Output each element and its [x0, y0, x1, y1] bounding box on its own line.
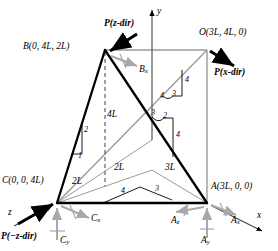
slope-CA-run2: 3: [155, 185, 159, 193]
reaction-Cx-sub: x: [97, 216, 100, 224]
member-BA: [105, 50, 207, 203]
force-P-neg-z-label: P(−z-dir): [1, 232, 37, 242]
base-line-mid-A: [152, 170, 207, 203]
x-axis-label: x: [257, 211, 261, 221]
dim-2L-mid-label: 2L: [114, 163, 124, 173]
slope-BC-run: 1: [78, 152, 82, 160]
dim-2L-left-label: 2L: [72, 177, 82, 187]
reaction-Az-label: Az: [171, 216, 180, 226]
point-C-label: C(0, 0, 4L): [2, 176, 44, 186]
reaction-Ax-sub: x: [237, 218, 240, 226]
slope-triangle-CA: [103, 187, 172, 203]
reaction-Bx-sub: x: [145, 67, 148, 75]
arrow-Az: [176, 207, 204, 212]
slope-CO-rise: 4: [185, 76, 189, 84]
base-plane-lines: [57, 140, 207, 203]
reaction-Ay-sub: y: [207, 238, 210, 246]
y-axis-label: y: [157, 7, 161, 17]
figure-canvas: B(0, 4L, 2L) O(3L, 4L, 0) C(0, 0, 4L) A(…: [0, 0, 278, 251]
force-P-z-label: P(z-dir): [104, 19, 134, 29]
slope-CA-run1: 4: [121, 187, 125, 195]
reaction-Ax-label: Ax: [231, 216, 240, 226]
force-P-x-label: P(x-dir): [214, 68, 245, 78]
slope-BC-rise: 2: [84, 126, 88, 134]
reaction-Bx-label: Bx: [139, 65, 148, 75]
point-B-label: B(0, 4L, 2L): [23, 42, 69, 52]
diagram-svg: [0, 0, 278, 251]
reaction-Az-sub: z: [177, 218, 180, 226]
reaction-Cy-sub: y: [66, 238, 69, 246]
reaction-Ay-label: Ay: [201, 236, 210, 246]
dim-3L-right-label: 3L: [165, 163, 175, 173]
z-axis-label: z: [8, 208, 12, 218]
slope-CO-run2: 3: [172, 90, 176, 98]
reaction-Cx-label: Cx: [91, 214, 100, 224]
slope-BA-run1: 3: [151, 109, 155, 117]
dim-4L-label: 4L: [107, 110, 117, 120]
slope-BA-run2: 2: [163, 112, 167, 120]
reaction-Cy-label: Cy: [60, 236, 69, 246]
reaction-arrows: [50, 54, 236, 240]
point-O-label: O(3L, 4L, 0): [199, 28, 247, 38]
point-A-label: A(3L, 0, 0): [211, 182, 252, 192]
slope-BA-rise: 4: [176, 131, 180, 139]
slope-CO-run1: 4: [160, 92, 164, 100]
